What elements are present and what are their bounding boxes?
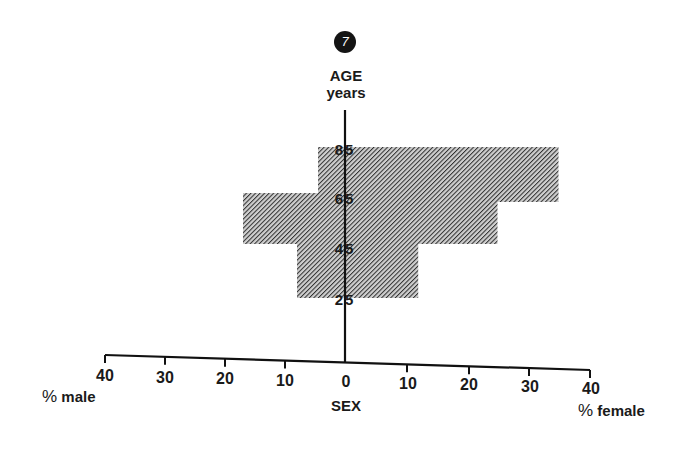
female-label-word: female [597,402,645,419]
x-tick-female-20: 20 [460,376,478,394]
x-tick-male-20: 20 [216,370,234,388]
bar-female-65-85 [345,147,559,202]
sex-axis-title: SEX [331,396,361,416]
age-label-45: 45 [335,240,356,257]
x-tick-male-10: 10 [276,372,294,390]
x-tick-zero: 0 [342,373,351,391]
age-label-85: 85 [335,141,356,158]
male-percent-sign: % [42,387,57,406]
age-label-65: 65 [335,190,356,207]
pyramid-bars [243,147,559,298]
x-tick-male-40: 40 [96,367,114,385]
male-label-word: male [61,388,95,405]
x-tick-male-30: 30 [156,369,174,387]
male-axis-label: % male [42,387,96,407]
x-tick-female-30: 30 [521,378,539,396]
age-axis-title-line2: years [326,83,365,103]
age-axis-title: AGE years [326,66,365,103]
female-percent-sign: % [578,401,593,420]
sex-axis-line [105,355,590,370]
bar-male-45-65 [243,193,345,244]
x-tick-female-10: 10 [399,375,417,393]
female-axis-label: % female [578,401,645,421]
bar-female-45-65 [345,202,498,244]
bar-female-25-45 [345,244,418,298]
age-label-25: 25 [335,291,356,308]
figure-number-badge: 7 [334,31,356,53]
x-tick-female-40: 40 [582,380,600,398]
